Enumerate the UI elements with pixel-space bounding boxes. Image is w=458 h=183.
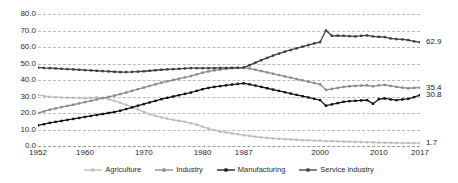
series-marker: [313, 98, 315, 100]
series-marker: [84, 101, 86, 103]
series-marker: [113, 111, 115, 113]
series-marker: [372, 141, 374, 143]
legend-label: Service industry: [320, 166, 373, 174]
series-marker: [231, 67, 233, 69]
series-marker: [378, 98, 380, 100]
end-value-label: 1.7: [426, 139, 437, 147]
series-marker: [378, 84, 380, 86]
series-marker: [143, 70, 145, 72]
y-axis-tick-label: 70.0: [0, 27, 36, 35]
series-marker: [325, 140, 327, 142]
series-marker: [160, 98, 162, 100]
series-marker: [272, 73, 274, 75]
series-marker: [384, 84, 386, 86]
legend-label: Manufacturing: [238, 166, 286, 174]
series-marker: [272, 137, 274, 139]
series-marker: [66, 96, 68, 98]
series-marker: [354, 35, 356, 37]
y-axis-tick-label: 40.0: [0, 76, 36, 84]
series-marker: [407, 142, 409, 144]
series-marker: [119, 71, 121, 73]
series-marker: [290, 92, 292, 94]
series-marker: [401, 98, 403, 100]
series-marker: [190, 122, 192, 124]
series-marker: [419, 41, 420, 43]
series-marker: [43, 123, 45, 125]
series-marker: [301, 45, 303, 47]
legend-item[interactable]: Service industry: [299, 166, 373, 174]
series-marker: [366, 84, 368, 86]
series-marker: [413, 40, 415, 42]
series-marker: [307, 44, 309, 46]
legend-marker-icon: [84, 166, 102, 174]
series-marker: [342, 86, 344, 88]
series-marker: [325, 29, 327, 31]
series-marker: [260, 59, 262, 61]
series-marker: [172, 79, 174, 81]
series-marker: [319, 83, 321, 85]
series-marker: [395, 38, 397, 40]
series-marker: [54, 67, 56, 69]
series-marker: [248, 135, 250, 137]
series-marker: [178, 94, 180, 96]
series-marker: [360, 99, 362, 101]
series-marker: [195, 73, 197, 75]
series-marker: [313, 82, 315, 84]
series-marker: [38, 124, 39, 126]
series-marker: [342, 101, 344, 103]
series-marker: [413, 96, 415, 98]
legend-item[interactable]: Industry: [155, 166, 203, 174]
series-marker: [201, 72, 203, 74]
series-marker: [237, 83, 239, 85]
series-marker: [54, 96, 56, 98]
series-marker: [266, 71, 268, 73]
series-marker: [137, 88, 139, 90]
series-marker: [49, 109, 51, 111]
series-marker: [389, 37, 391, 39]
series-marker: [407, 39, 409, 41]
series-marker: [60, 120, 62, 122]
series-marker: [125, 104, 127, 106]
series-marker: [284, 50, 286, 52]
series-marker: [384, 36, 386, 38]
series-marker: [407, 87, 409, 89]
series-marker: [178, 77, 180, 79]
legend-item[interactable]: Manufacturing: [217, 166, 286, 174]
series-marker: [43, 95, 45, 97]
series-marker: [325, 105, 327, 107]
legend-label: Agriculture: [105, 166, 141, 174]
series-line: [38, 68, 420, 113]
series-marker: [219, 85, 221, 87]
series-marker: [166, 80, 168, 82]
series-marker: [60, 68, 62, 70]
gridline: [38, 146, 420, 147]
series-marker: [348, 100, 350, 102]
x-axis-tick-label: 1987: [224, 149, 264, 157]
series-marker: [360, 141, 362, 143]
series-marker: [172, 119, 174, 121]
series-marker: [107, 70, 109, 72]
series-marker: [54, 107, 56, 109]
series-marker: [260, 136, 262, 138]
series-marker: [331, 103, 333, 105]
legend-label: Industry: [176, 166, 203, 174]
series-marker: [389, 142, 391, 144]
series-marker: [43, 110, 45, 112]
series-marker: [101, 70, 103, 72]
series-marker: [54, 121, 56, 123]
series-marker: [295, 94, 297, 96]
series-marker: [337, 34, 339, 36]
series-marker: [413, 142, 415, 144]
series-marker: [195, 90, 197, 92]
series-marker: [190, 75, 192, 77]
series-marker: [43, 67, 45, 69]
legend-item[interactable]: Agriculture: [84, 166, 141, 174]
series-marker: [219, 67, 221, 69]
series-marker: [125, 71, 127, 73]
series-marker: [319, 140, 321, 142]
series-marker: [160, 69, 162, 71]
series-marker: [248, 67, 250, 69]
series-marker: [337, 87, 339, 89]
line-chart: 0.010.020.030.040.050.060.070.080.0 1952…: [0, 0, 458, 183]
series-line: [38, 31, 420, 73]
